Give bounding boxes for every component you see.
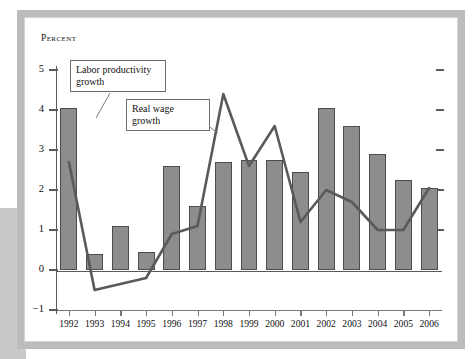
figure-root: Percent −1012345 19921993199419951996199… [0,0,475,359]
line-series-real-wage-growth [0,0,475,359]
chart-plot-area: Percent −1012345 19921993199419951996199… [0,0,475,359]
callout-real-wage-growth: Real wage growth [126,99,210,131]
callout-labor-productivity-growth: Labor productivity growth [70,60,166,92]
